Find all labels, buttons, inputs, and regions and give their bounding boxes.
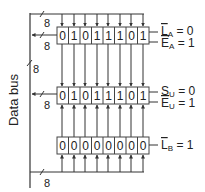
bus-width-label: 8: [33, 63, 39, 75]
bit-cell: 0: [117, 139, 124, 153]
control-eu: EU = 1: [161, 96, 195, 111]
bit-cell: 1: [94, 89, 101, 103]
bus-width-label: 8: [44, 40, 50, 52]
a-to-u-lines: [62, 44, 143, 86]
bit-cell: 0: [59, 89, 66, 103]
bit-cell: 0: [71, 139, 78, 153]
bit-cell: 1: [71, 29, 78, 43]
bit-cell: 1: [94, 29, 101, 43]
bit-cell: 0: [59, 139, 66, 153]
bit-cell: 1: [117, 29, 124, 43]
bit-cell: 0: [59, 29, 66, 43]
bit-cell: 0: [105, 139, 112, 153]
bit-cell: 1: [105, 89, 112, 103]
control-ea: EA = 1: [161, 36, 195, 51]
bus-width-label: 8: [44, 17, 50, 29]
bit-cell: 1: [117, 89, 124, 103]
register-diagram: Data bus 8 0 1 0 1 1 1 0 1: [0, 0, 205, 192]
bit-cell: 1: [71, 89, 78, 103]
b-to-u-lines: [62, 105, 143, 137]
bit-cell: 1: [140, 29, 147, 43]
bit-cell: 0: [82, 139, 89, 153]
bit-cell: 0: [82, 89, 89, 103]
bit-cell: 0: [128, 89, 135, 103]
data-bus-label: Data bus: [6, 73, 21, 126]
register-b: 0 0 0 0 0 0 0 0: [57, 137, 158, 154]
register-u: 0 1 0 1 1 1 0 1: [32, 87, 158, 104]
bit-cell: 0: [128, 139, 135, 153]
bit-cell: 0: [94, 139, 101, 153]
bit-cell: 0: [82, 29, 89, 43]
bit-cell: 0: [140, 139, 147, 153]
control-lb: LB = 1: [161, 138, 194, 153]
bus-width-label: 8: [44, 177, 50, 189]
bit-cell: 1: [140, 89, 147, 103]
bit-cell: 0: [128, 29, 135, 43]
register-a: 0 1 0 1 1 1 0 1: [32, 27, 158, 44]
bit-cell: 1: [105, 29, 112, 43]
bus-to-register-b: [30, 155, 144, 175]
bus-width-label: 8: [44, 99, 50, 111]
